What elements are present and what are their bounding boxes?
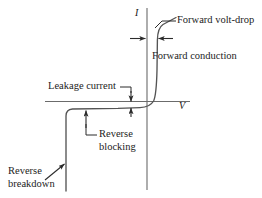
- reverse-blocking-label-line1: Reverse: [99, 128, 133, 140]
- forward-volt-drop-leader: [155, 21, 176, 28]
- forward-volt-drop-label: Forward volt-drop: [177, 14, 254, 25]
- current-axis-label: I: [135, 8, 138, 19]
- diode-iv-characteristic-figure: I V Forward volt-drop Forward conduction…: [0, 0, 262, 198]
- reverse-breakdown-label-line1: Reverse: [8, 165, 42, 177]
- diode-curve: [66, 18, 176, 192]
- forward-conduction-label: Forward conduction: [152, 50, 237, 61]
- reverse-blocking-label-line2: blocking: [99, 141, 136, 153]
- reverse-blocking-leader: [86, 124, 97, 135]
- voltage-axis-label: V: [179, 101, 185, 112]
- leakage-current-leader: [120, 87, 131, 93]
- leakage-current-label: Leakage current: [48, 80, 116, 91]
- reverse-breakdown-label-line2: breakdown: [8, 178, 55, 190]
